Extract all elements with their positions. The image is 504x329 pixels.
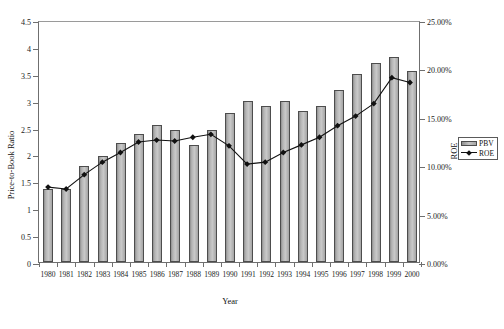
y-axis-left-tick-label: 2 bbox=[27, 152, 31, 161]
x-axis-tick bbox=[275, 262, 276, 267]
x-axis-tick bbox=[57, 262, 58, 267]
roe-data-point bbox=[172, 138, 178, 144]
x-axis-tick-label: 1998 bbox=[368, 270, 383, 279]
roe-data-point bbox=[262, 159, 268, 165]
y-axis-right-tick-label: 15.00% bbox=[427, 114, 452, 123]
x-axis-tick bbox=[403, 262, 404, 267]
y-axis-left-tick bbox=[33, 76, 39, 77]
y-axis-left-tick bbox=[33, 130, 39, 131]
y-axis-right-tick-label: 5.00% bbox=[427, 211, 448, 220]
y-axis-left-tick bbox=[33, 22, 39, 23]
y-axis-right-title: ROE bbox=[449, 143, 459, 160]
y-axis-left-tick bbox=[33, 103, 39, 104]
x-axis-tick bbox=[203, 262, 204, 267]
y-axis-left-tick-label: 4.5 bbox=[21, 18, 31, 27]
x-axis-tick-label: 1992 bbox=[259, 270, 274, 279]
x-axis-tick-label: 1994 bbox=[295, 270, 310, 279]
price-to-book-roe-chart: Price-to-Book Ratio ROE Year 00.511.522.… bbox=[0, 0, 504, 329]
y-axis-right-tick bbox=[419, 167, 425, 168]
x-axis-tick-label: 1999 bbox=[386, 270, 401, 279]
y-axis-left-tick-label: 2.5 bbox=[21, 125, 31, 134]
x-axis-tick-label: 1997 bbox=[350, 270, 365, 279]
plot-area: 00.511.522.533.544.50.00%5.00%10.00%15.0… bbox=[38, 21, 420, 263]
x-axis-tick bbox=[185, 262, 186, 267]
y-axis-right-tick-label: 0.00% bbox=[427, 260, 448, 269]
x-axis-tick bbox=[75, 262, 76, 267]
x-axis-tick bbox=[366, 262, 367, 267]
roe-line bbox=[48, 78, 410, 189]
x-axis-tick bbox=[148, 262, 149, 267]
x-axis-tick-label: 1993 bbox=[277, 270, 292, 279]
y-axis-left-tick-label: 1.5 bbox=[21, 179, 31, 188]
y-axis-left-tick-label: 1 bbox=[27, 206, 31, 215]
legend-label-roe: ROE bbox=[479, 150, 494, 158]
x-axis-tick bbox=[166, 262, 167, 267]
x-axis-tick-label: 1991 bbox=[241, 270, 256, 279]
x-axis-tick-label: 1989 bbox=[204, 270, 219, 279]
x-axis-tick bbox=[39, 262, 40, 267]
roe-data-point bbox=[117, 150, 123, 156]
y-axis-left-tick-label: 3 bbox=[27, 98, 31, 107]
x-axis-tick-label: 1983 bbox=[95, 270, 110, 279]
roe-data-point bbox=[317, 134, 323, 140]
y-axis-right-tick bbox=[419, 216, 425, 217]
roe-data-point bbox=[407, 80, 413, 86]
y-axis-right-tick-label: 25.00% bbox=[427, 18, 452, 27]
x-axis-tick bbox=[221, 262, 222, 267]
x-axis-tick-label: 1985 bbox=[132, 270, 147, 279]
y-axis-left-tick-label: 3.5 bbox=[21, 71, 31, 80]
y-axis-left-tick bbox=[33, 156, 39, 157]
roe-data-point bbox=[280, 150, 286, 156]
x-axis-tick-label: 1981 bbox=[59, 270, 74, 279]
roe-data-point bbox=[136, 139, 142, 145]
x-axis-tick-label: 2000 bbox=[404, 270, 419, 279]
roe-data-point bbox=[208, 131, 214, 137]
y-axis-right-tick-label: 20.00% bbox=[427, 66, 452, 75]
x-axis-tick bbox=[257, 262, 258, 267]
x-axis-tick bbox=[385, 262, 386, 267]
x-axis-tick-label: 1995 bbox=[313, 270, 328, 279]
x-axis-tick bbox=[94, 262, 95, 267]
roe-swatch-icon bbox=[461, 150, 477, 156]
y-axis-left-tick-label: 4 bbox=[27, 44, 31, 53]
y-axis-left-tick-label: 0.5 bbox=[21, 233, 31, 242]
y-axis-right-tick bbox=[419, 22, 425, 23]
roe-data-point bbox=[190, 134, 196, 140]
x-axis-tick-label: 1988 bbox=[186, 270, 201, 279]
y-axis-left-tick-label: 0 bbox=[27, 260, 31, 269]
legend-item-roe: ROE bbox=[461, 150, 494, 158]
x-axis-tick bbox=[348, 262, 349, 267]
y-axis-left-tick bbox=[33, 237, 39, 238]
roe-data-point bbox=[298, 142, 304, 148]
y-axis-left-tick bbox=[33, 49, 39, 50]
x-axis-tick-label: 1987 bbox=[168, 270, 183, 279]
roe-data-point bbox=[154, 137, 160, 143]
x-axis-tick-label: 1986 bbox=[150, 270, 165, 279]
y-axis-right-tick bbox=[419, 70, 425, 71]
roe-line-layer bbox=[39, 22, 419, 262]
y-axis-left-title: Price-to-Book Ratio bbox=[6, 105, 16, 225]
x-axis-tick-label: 1996 bbox=[332, 270, 347, 279]
chart-legend: PBV ROE bbox=[458, 137, 498, 160]
x-axis-tick bbox=[112, 262, 113, 267]
x-axis-tick-label: 1984 bbox=[113, 270, 128, 279]
pbv-swatch-icon bbox=[461, 141, 477, 146]
x-axis-tick bbox=[239, 262, 240, 267]
x-axis-tick bbox=[330, 262, 331, 267]
y-axis-left-tick bbox=[33, 183, 39, 184]
y-axis-right-tick bbox=[419, 119, 425, 120]
y-axis-right-tick-label: 10.00% bbox=[427, 163, 452, 172]
roe-data-point bbox=[45, 184, 51, 190]
x-axis-tick-label: 1990 bbox=[223, 270, 238, 279]
x-axis-title: Year bbox=[0, 296, 460, 306]
x-axis-tick bbox=[130, 262, 131, 267]
legend-label-pbv: PBV bbox=[479, 140, 494, 148]
y-axis-left-tick bbox=[33, 210, 39, 211]
x-axis-tick bbox=[312, 262, 313, 267]
x-axis-tick-label: 1980 bbox=[41, 270, 56, 279]
y-axis-right-tick bbox=[419, 264, 425, 265]
roe-data-point bbox=[335, 123, 341, 129]
x-axis-tick-label: 1982 bbox=[77, 270, 92, 279]
x-axis-tick bbox=[421, 262, 422, 267]
legend-item-pbv: PBV bbox=[461, 140, 494, 148]
